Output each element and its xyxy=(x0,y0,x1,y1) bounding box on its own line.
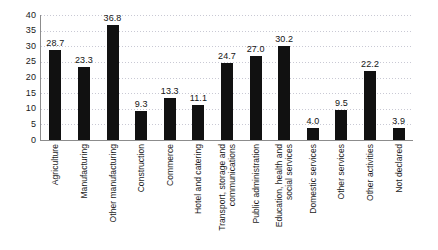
bar-value-label: 30.2 xyxy=(275,35,293,44)
bar-value-label: 9.3 xyxy=(135,100,148,109)
x-axis-tick-label: Other services xyxy=(327,141,356,250)
bar-group: 36.8 xyxy=(98,15,127,140)
bar[interactable] xyxy=(364,71,376,140)
bar-value-label: 11.1 xyxy=(190,94,207,103)
bar[interactable] xyxy=(393,128,405,140)
x-axis-tick-label-text: Not declared xyxy=(394,144,404,193)
x-axis-tick-label: Transport, storage andcommunications xyxy=(213,141,242,250)
x-axis-tick-label: Other activities xyxy=(356,141,385,250)
bar-value-label: 9.5 xyxy=(335,99,348,108)
bar[interactable] xyxy=(78,67,90,140)
x-axis-tick-label-line: Hotel and catering xyxy=(193,144,203,214)
x-axis-tick-label: Domestic services xyxy=(299,141,328,250)
x-axis-tick-label: Not declared xyxy=(384,141,413,250)
bar[interactable] xyxy=(164,98,176,140)
x-axis-tick-label-line: Transport, storage and xyxy=(217,144,227,231)
y-axis-tick-label: 10 xyxy=(2,104,36,113)
x-axis-tick-label-text: Agriculture xyxy=(50,144,60,185)
bar-group: 28.7 xyxy=(41,15,70,140)
bar[interactable] xyxy=(192,105,204,140)
x-axis-tick-label-text: Transport, storage andcommunications xyxy=(217,144,237,231)
y-axis-tick-label: 15 xyxy=(2,89,36,98)
x-axis-tick-label-text: Domestic services xyxy=(308,144,318,214)
x-axis: AgricultureManufacturingOther manufactur… xyxy=(41,141,413,250)
bar[interactable] xyxy=(221,63,233,140)
x-axis-tick-label-text: Commerce xyxy=(165,144,175,186)
x-axis-tick-label: Construction xyxy=(127,141,156,250)
bar-group: 11.1 xyxy=(184,15,213,140)
bar[interactable] xyxy=(278,46,290,140)
x-axis-tick-label-line: Other manufacturing xyxy=(108,144,118,222)
x-axis-tick-label: Public administration xyxy=(241,141,270,250)
bar[interactable] xyxy=(107,25,119,140)
plot-area: 28.723.336.89.313.311.124.727.030.24.09.… xyxy=(41,15,413,140)
bar-value-label: 28.7 xyxy=(46,39,64,48)
x-axis-tick-label-line: Not declared xyxy=(394,144,404,193)
bar[interactable] xyxy=(335,110,347,140)
x-axis-tick-label-line: Agriculture xyxy=(50,144,60,185)
y-axis-tick-label: 30 xyxy=(2,42,36,51)
bar-value-label: 22.2 xyxy=(361,60,379,69)
x-axis-tick-label-line: Public administration xyxy=(251,144,261,223)
bar-value-label: 36.8 xyxy=(104,14,122,23)
x-axis-tick-label-line: Manufacturing xyxy=(79,144,89,199)
y-axis-tick-label: 20 xyxy=(2,73,36,82)
x-axis-tick-label-text: Other manufacturing xyxy=(108,144,118,222)
bar-value-label: 24.7 xyxy=(218,52,236,61)
bar-group: 13.3 xyxy=(155,15,184,140)
bar-group: 9.5 xyxy=(327,15,356,140)
x-axis-tick-label-text: Construction xyxy=(136,144,146,192)
x-axis-tick-label: Other manufacturing xyxy=(98,141,127,250)
x-axis-tick-label: Commerce xyxy=(155,141,184,250)
x-axis-tick-label-text: Other services xyxy=(336,144,346,200)
y-axis-tick-label: 5 xyxy=(2,120,36,129)
bar-group: 24.7 xyxy=(213,15,242,140)
bar-value-label: 3.9 xyxy=(392,117,405,126)
bar-chart: 0510152025303540 28.723.336.89.313.311.1… xyxy=(0,0,438,250)
bar-group: 30.2 xyxy=(270,15,299,140)
bar[interactable] xyxy=(49,50,61,140)
bar-value-label: 27.0 xyxy=(247,45,265,54)
x-axis-tick-label: Manufacturing xyxy=(70,141,99,250)
x-axis-tick-label: Agriculture xyxy=(41,141,70,250)
bar-group: 27.0 xyxy=(241,15,270,140)
x-axis-tick-label-text: Manufacturing xyxy=(79,144,89,199)
x-axis-tick-label-text: Education, health andsocial services xyxy=(274,144,294,227)
y-axis-tick-label: 0 xyxy=(2,136,36,145)
x-axis-tick-label: Hotel and catering xyxy=(184,141,213,250)
x-axis-tick-label-text: Other activities xyxy=(365,144,375,201)
y-axis-tick-label: 40 xyxy=(2,11,36,20)
x-axis-tick-label-text: Public administration xyxy=(251,144,261,223)
x-axis-tick-label-text: Hotel and catering xyxy=(193,144,203,214)
bar-group: 9.3 xyxy=(127,15,156,140)
bar[interactable] xyxy=(135,111,147,140)
y-axis-tick-label: 35 xyxy=(2,26,36,35)
x-axis-tick-label-line: Other activities xyxy=(365,144,375,201)
y-axis: 0510152025303540 xyxy=(0,0,36,250)
bar-group: 23.3 xyxy=(70,15,99,140)
bar[interactable] xyxy=(307,128,319,141)
y-axis-tick-label: 25 xyxy=(2,57,36,66)
x-axis-tick-label-line: communications xyxy=(227,144,237,231)
x-axis-tick-label: Education, health andsocial services xyxy=(270,141,299,250)
bar-value-label: 13.3 xyxy=(161,87,179,96)
bar-group: 22.2 xyxy=(356,15,385,140)
x-axis-tick-label-line: Commerce xyxy=(165,144,175,186)
bar-group: 3.9 xyxy=(384,15,413,140)
x-axis-tick-label-line: Domestic services xyxy=(308,144,318,214)
x-axis-tick-label-line: Construction xyxy=(136,144,146,192)
bar[interactable] xyxy=(250,56,262,140)
x-axis-tick-label-line: Other services xyxy=(336,144,346,200)
bar-value-label: 23.3 xyxy=(75,56,93,65)
bar-value-label: 4.0 xyxy=(306,117,319,126)
x-axis-tick-label-line: social services xyxy=(284,144,294,227)
x-axis-tick-label-line: Education, health and xyxy=(274,144,284,227)
bar-group: 4.0 xyxy=(299,15,328,140)
